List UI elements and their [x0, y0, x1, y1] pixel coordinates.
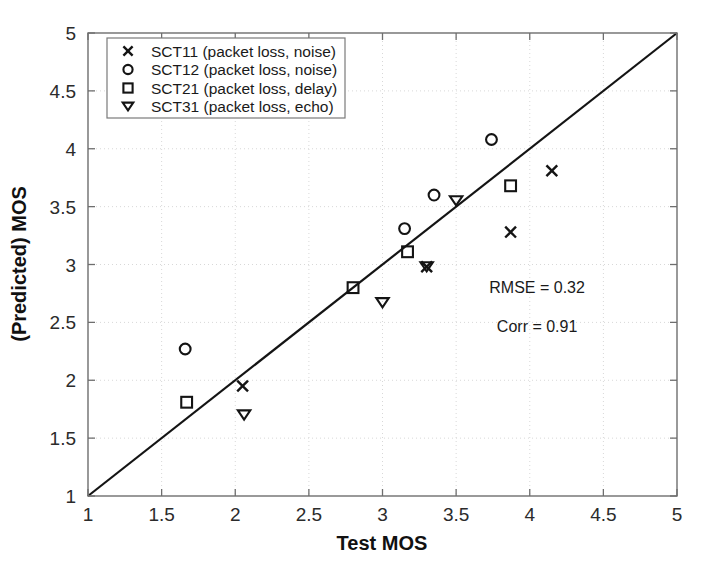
- x-tick-label: 1.5: [148, 504, 174, 525]
- legend-label: SCT11 (packet loss, noise): [151, 43, 336, 60]
- x-tick-label: 3: [377, 504, 388, 525]
- x-tick-label: 5: [672, 504, 683, 525]
- legend-label: SCT21 (packet loss, delay): [151, 80, 337, 97]
- chart-legend: SCT11 (packet loss, noise)SCT12 (packet …: [107, 38, 345, 118]
- x-tick-label: 4.5: [590, 504, 616, 525]
- plot-canvas: 11.522.533.544.55 11.522.533.544.55 RMSE…: [0, 0, 718, 566]
- legend-label: SCT31 (packet loss, echo): [151, 98, 334, 115]
- y-tick-label: 3: [65, 255, 76, 276]
- y-tick-label: 4: [65, 139, 76, 160]
- x-axis-tick-labels: 11.522.533.544.55: [83, 504, 683, 525]
- x-tick-label: 1: [83, 504, 94, 525]
- scatter-plot-figure: 11.522.533.544.55 11.522.533.544.55 RMSE…: [0, 0, 718, 566]
- y-tick-label: 3.5: [50, 197, 76, 218]
- x-tick-label: 3.5: [443, 504, 469, 525]
- y-axis-title: (Predicted) MOS: [8, 186, 30, 342]
- rmse-annotation: RMSE = 0.32: [489, 279, 585, 296]
- y-tick-label: 2: [65, 370, 76, 391]
- x-tick-label: 2: [230, 504, 241, 525]
- x-tick-label: 2.5: [296, 504, 322, 525]
- y-tick-label: 1.5: [50, 428, 76, 449]
- x-axis-title: Test MOS: [337, 532, 428, 554]
- y-tick-label: 2.5: [50, 312, 76, 333]
- y-tick-label: 5: [65, 23, 76, 44]
- legend-label: SCT12 (packet loss, noise): [151, 61, 337, 78]
- corr-annotation: Corr = 0.91: [497, 318, 578, 335]
- y-tick-label: 4.5: [50, 81, 76, 102]
- x-tick-label: 4: [524, 504, 535, 525]
- y-tick-label: 1: [65, 486, 76, 507]
